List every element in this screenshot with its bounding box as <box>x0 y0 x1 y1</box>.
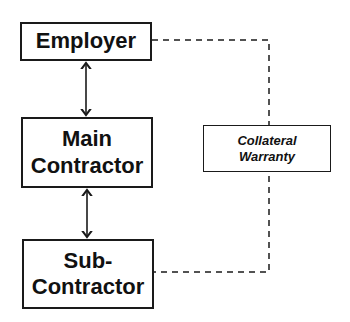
collateral-warranty-label-line2: Warranty <box>239 149 295 165</box>
employer-box: Employer <box>20 22 152 61</box>
collateral-warranty-label-line1: Collateral <box>237 133 296 149</box>
sub-contractor-box: Sub- Contractor <box>22 239 154 309</box>
main-contractor-label-line2: Contractor <box>31 153 143 179</box>
sub-contractor-label-line1: Sub- <box>64 248 113 274</box>
contract-relationship-diagram: Employer Main Contractor Sub- Contractor… <box>0 0 350 322</box>
main-contractor-label-line1: Main <box>62 126 112 152</box>
collateral-warranty-box: Collateral Warranty <box>203 125 331 172</box>
employer-label: Employer <box>36 28 136 54</box>
main-contractor-box: Main Contractor <box>21 117 153 188</box>
sub-contractor-label-line2: Contractor <box>32 274 144 300</box>
